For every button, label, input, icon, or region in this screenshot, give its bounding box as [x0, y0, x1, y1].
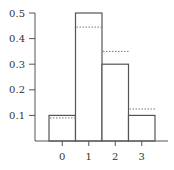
- x-ticks: 0123: [59, 141, 145, 162]
- bar-0: [49, 115, 76, 141]
- x-tick-label: 0: [59, 151, 65, 162]
- y-tick-label: 0.2: [9, 84, 25, 95]
- y-ticks: 0.10.20.30.40.5: [9, 8, 35, 121]
- bar-2: [102, 64, 129, 141]
- x-tick-label: 2: [112, 151, 118, 162]
- x-tick-label: 1: [86, 151, 92, 162]
- bars: [49, 13, 155, 141]
- x-tick-label: 3: [139, 151, 145, 162]
- bar-1: [76, 13, 103, 141]
- bar-3: [129, 115, 156, 141]
- y-tick-label: 0.1: [9, 110, 25, 121]
- bar-chart: 0.10.20.30.40.5 0123: [0, 0, 174, 170]
- y-tick-label: 0.5: [9, 8, 25, 19]
- y-tick-label: 0.4: [9, 33, 25, 44]
- y-tick-label: 0.3: [9, 59, 25, 70]
